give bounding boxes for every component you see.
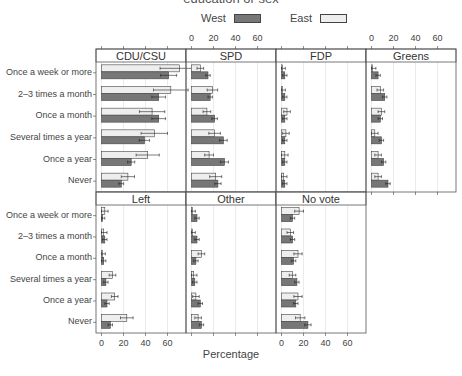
- x-tick-label: 20: [298, 338, 308, 348]
- y-category-label: Once a month: [0, 252, 92, 262]
- x-tick-label: 60: [432, 33, 442, 43]
- svg-text:Greens: Greens: [393, 50, 430, 62]
- y-category-label: Never: [0, 175, 92, 185]
- x-tick-label: 0: [99, 338, 104, 348]
- x-axis-label: Percentage: [0, 348, 462, 360]
- svg-text:No vote: No vote: [302, 193, 340, 205]
- panel-no-vote: No vote: [276, 192, 366, 333]
- x-tick-label: 40: [140, 338, 150, 348]
- y-category-label: Once a month: [0, 110, 92, 120]
- panel-left: Left: [96, 192, 186, 333]
- x-tick-label: 40: [230, 33, 240, 43]
- y-category-label: Once a year: [0, 295, 92, 305]
- x-tick-label: 40: [410, 33, 420, 43]
- x-tick-label: 20: [208, 33, 218, 43]
- y-category-label: Several times a year: [0, 132, 92, 142]
- svg-text:SPD: SPD: [220, 50, 243, 62]
- svg-text:Other: Other: [217, 193, 245, 205]
- svg-text:Left: Left: [132, 193, 150, 205]
- panel-cdu-csu: CDU/CSU: [96, 49, 199, 192]
- x-tick-label: 60: [252, 33, 262, 43]
- x-tick-label: 0: [189, 33, 194, 43]
- panel-other: Other: [186, 192, 276, 333]
- x-tick-label: 40: [320, 338, 330, 348]
- panel-fdp: FDP: [276, 49, 366, 192]
- x-tick-label: 0: [369, 33, 374, 43]
- panel-spd: SPD: [186, 49, 276, 192]
- x-tick-label: 20: [118, 338, 128, 348]
- x-tick-label: 60: [162, 338, 172, 348]
- svg-text:CDU/CSU: CDU/CSU: [116, 50, 166, 62]
- svg-text:FDP: FDP: [310, 50, 332, 62]
- y-category-label: Once a week or more: [0, 67, 92, 77]
- y-category-label: Never: [0, 316, 92, 326]
- chart-container: education or sex West East CDU/CSUSPDFDP…: [0, 0, 462, 376]
- x-tick-label: 60: [342, 338, 352, 348]
- y-category-label: Once a year: [0, 154, 92, 164]
- x-tick-label: 0: [279, 338, 284, 348]
- panel-greens: Greens: [366, 49, 456, 192]
- y-category-label: 2–3 times a month: [0, 89, 92, 99]
- x-tick-label: 20: [388, 33, 398, 43]
- y-category-label: 2–3 times a month: [0, 231, 92, 241]
- y-category-label: Several times a year: [0, 274, 92, 284]
- y-category-label: Once a week or more: [0, 210, 92, 220]
